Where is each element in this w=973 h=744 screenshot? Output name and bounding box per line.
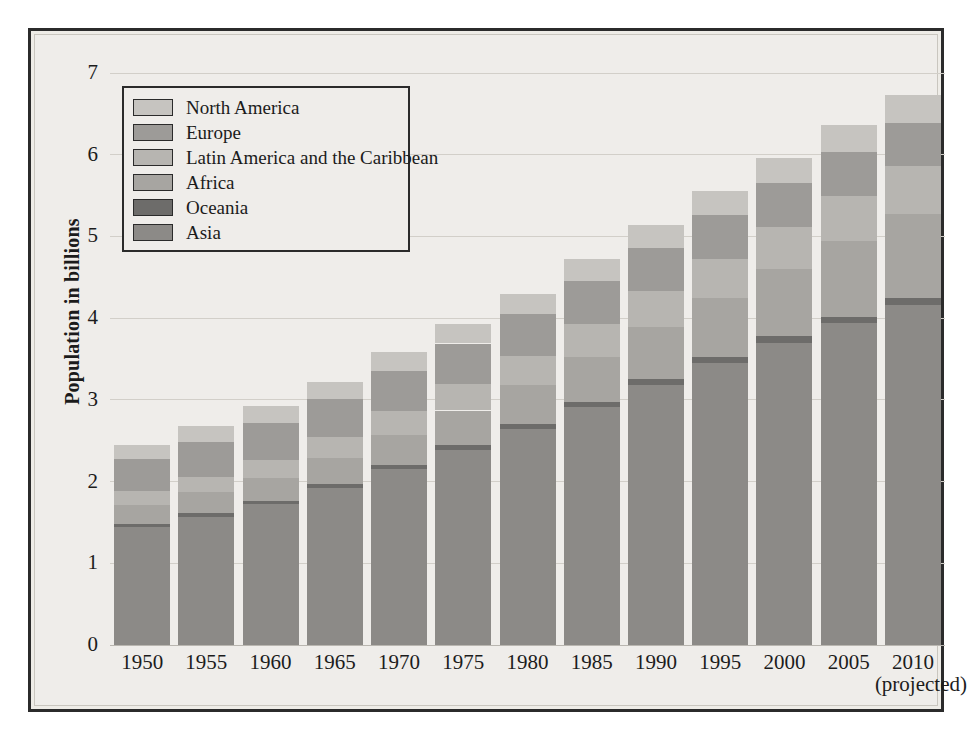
bar-segment-1960-asia[interactable]	[243, 504, 299, 645]
bar-segment-1965-asia[interactable]	[307, 488, 363, 645]
legend-item-oceania[interactable]: Oceania	[133, 195, 399, 220]
bar-segment-2005-asia[interactable]	[821, 323, 877, 645]
bar-segment-1960-africa[interactable]	[243, 478, 299, 502]
bar-segment-1950-asia[interactable]	[114, 527, 170, 645]
bar-segment-1965-europe[interactable]	[307, 399, 363, 437]
bar-1975[interactable]	[435, 73, 491, 645]
bar-segment-2000-europe[interactable]	[756, 183, 812, 226]
bar-segment-1955-latin-america-and-the-caribbean[interactable]	[178, 477, 234, 493]
bar-segment-1975-latin-america-and-the-caribbean[interactable]	[435, 384, 491, 410]
bar-segment-1980-north-america[interactable]	[500, 294, 556, 314]
bar-segment-1985-north-america[interactable]	[564, 259, 620, 281]
bar-segment-2005-oceania[interactable]	[821, 317, 877, 324]
bar-segment-1985-africa[interactable]	[564, 357, 620, 403]
bar-segment-1990-europe[interactable]	[628, 248, 684, 291]
bar-segment-1950-europe[interactable]	[114, 459, 170, 492]
bar-segment-2000-oceania[interactable]	[756, 336, 812, 343]
bar-segment-1995-asia[interactable]	[692, 363, 748, 645]
bar-segment-1985-europe[interactable]	[564, 281, 620, 323]
bar-segment-1970-oceania[interactable]	[371, 465, 427, 469]
bar-segment-2010-north-america[interactable]	[885, 95, 941, 123]
bar-segment-1985-oceania[interactable]	[564, 402, 620, 407]
bar-segment-1950-oceania[interactable]	[114, 524, 170, 527]
bar-segment-1990-asia[interactable]	[628, 385, 684, 645]
bar-segment-1965-africa[interactable]	[307, 458, 363, 484]
bar-segment-1980-oceania[interactable]	[500, 424, 556, 429]
bar-segment-1995-latin-america-and-the-caribbean[interactable]	[692, 259, 748, 298]
bar-segment-1960-north-america[interactable]	[243, 406, 299, 422]
bar-segment-2010-oceania[interactable]	[885, 298, 941, 305]
bar-1995[interactable]	[692, 73, 748, 645]
bar-segment-1960-oceania[interactable]	[243, 501, 299, 504]
bar-segment-1970-asia[interactable]	[371, 469, 427, 645]
bar-segment-1970-latin-america-and-the-caribbean[interactable]	[371, 411, 427, 435]
bar-segment-1990-north-america[interactable]	[628, 225, 684, 248]
bar-segment-1955-europe[interactable]	[178, 442, 234, 477]
bar-segment-1990-oceania[interactable]	[628, 379, 684, 385]
bar-segment-1975-asia[interactable]	[435, 450, 491, 645]
bar-segment-2010-africa[interactable]	[885, 214, 941, 297]
y-tick-label-0: 0	[58, 634, 98, 655]
bar-segment-2000-latin-america-and-the-caribbean[interactable]	[756, 227, 812, 269]
bar-2005[interactable]	[821, 73, 877, 645]
bar-segment-1955-oceania[interactable]	[178, 513, 234, 516]
bar-segment-1975-oceania[interactable]	[435, 445, 491, 450]
bar-segment-2005-latin-america-and-the-caribbean[interactable]	[821, 196, 877, 242]
bar-segment-1970-north-america[interactable]	[371, 352, 427, 371]
bar-segment-2010-asia[interactable]	[885, 305, 941, 645]
bar-segment-1985-asia[interactable]	[564, 407, 620, 645]
bar-segment-1975-north-america[interactable]	[435, 324, 491, 344]
bar-segment-1995-oceania[interactable]	[692, 357, 748, 363]
bar-segment-2000-asia[interactable]	[756, 343, 812, 645]
legend-item-north-america[interactable]: North America	[133, 95, 399, 120]
bar-segment-1980-africa[interactable]	[500, 385, 556, 424]
bar-segment-1990-latin-america-and-the-caribbean[interactable]	[628, 291, 684, 327]
x-tick-year: 1980	[507, 650, 549, 674]
bar-1985[interactable]	[564, 73, 620, 645]
bar-segment-1965-oceania[interactable]	[307, 484, 363, 488]
bar-segment-1960-latin-america-and-the-caribbean[interactable]	[243, 460, 299, 478]
bar-segment-1950-north-america[interactable]	[114, 445, 170, 459]
bar-segment-1980-europe[interactable]	[500, 314, 556, 356]
bar-1980[interactable]	[500, 73, 556, 645]
y-tick-label-7: 7	[58, 62, 98, 83]
bar-segment-1995-europe[interactable]	[692, 215, 748, 258]
bar-segment-1975-africa[interactable]	[435, 411, 491, 445]
bar-segment-1995-africa[interactable]	[692, 298, 748, 358]
chart-legend[interactable]: North AmericaEuropeLatin America and the…	[122, 86, 410, 252]
legend-item-latin-america-and-the-caribbean[interactable]: Latin America and the Caribbean	[133, 145, 399, 170]
bar-segment-1975-europe[interactable]	[435, 344, 491, 385]
bar-segment-1990-africa[interactable]	[628, 327, 684, 379]
y-tick-label-2: 2	[58, 471, 98, 492]
bar-segment-1995-north-america[interactable]	[692, 191, 748, 216]
bar-segment-2010-latin-america-and-the-caribbean[interactable]	[885, 166, 941, 214]
bar-segment-1965-latin-america-and-the-caribbean[interactable]	[307, 437, 363, 457]
bar-segment-1970-africa[interactable]	[371, 435, 427, 465]
bar-segment-1980-asia[interactable]	[500, 429, 556, 645]
legend-item-africa[interactable]: Africa	[133, 170, 399, 195]
x-tick-year: 1990	[635, 650, 677, 674]
bar-segment-2005-north-america[interactable]	[821, 125, 877, 152]
y-axis-tick-labels: 01234567	[52, 73, 98, 645]
bar-segment-2000-africa[interactable]	[756, 269, 812, 336]
bar-segment-2005-europe[interactable]	[821, 152, 877, 195]
legend-item-asia[interactable]: Asia	[133, 220, 399, 245]
bar-segment-2005-africa[interactable]	[821, 241, 877, 316]
bar-segment-2010-europe[interactable]	[885, 123, 941, 166]
bar-1990[interactable]	[628, 73, 684, 645]
bar-segment-1955-africa[interactable]	[178, 492, 234, 513]
x-axis-tick-labels: 1950195519601965197019751980198519901995…	[110, 651, 945, 711]
legend-item-europe[interactable]: Europe	[133, 120, 399, 145]
bar-segment-1955-north-america[interactable]	[178, 426, 234, 442]
bar-segment-1985-latin-america-and-the-caribbean[interactable]	[564, 324, 620, 357]
bar-segment-1970-europe[interactable]	[371, 371, 427, 411]
bar-segment-2000-north-america[interactable]	[756, 158, 812, 183]
bar-segment-1950-latin-america-and-the-caribbean[interactable]	[114, 491, 170, 505]
bar-segment-1950-africa[interactable]	[114, 505, 170, 524]
bar-2000[interactable]	[756, 73, 812, 645]
bar-segment-1960-europe[interactable]	[243, 423, 299, 460]
bar-segment-1955-asia[interactable]	[178, 517, 234, 645]
bar-segment-1980-latin-america-and-the-caribbean[interactable]	[500, 356, 556, 385]
bar-segment-1965-north-america[interactable]	[307, 382, 363, 399]
bar-2010[interactable]	[885, 73, 941, 645]
